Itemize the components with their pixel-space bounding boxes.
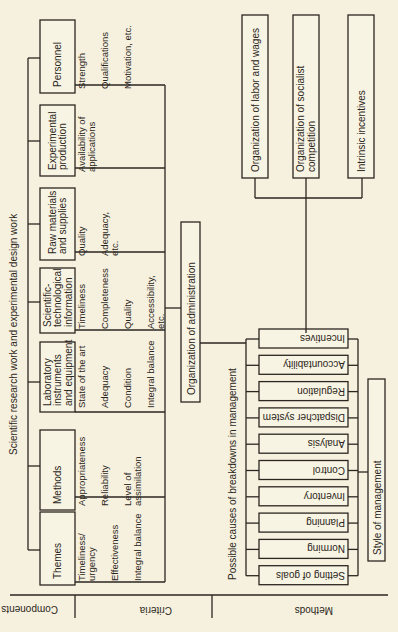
component-box: Scientific-technologicalinformation	[40, 268, 75, 333]
component-label: Laboratory	[42, 358, 53, 406]
criterion-text: Completeness	[99, 268, 110, 329]
criterion-text: Effectiveness	[109, 524, 120, 581]
incentive-type-box: Intrinsic incentives	[348, 15, 374, 178]
management-function-box: Analysis	[246, 434, 358, 453]
management-function-box: Control	[246, 461, 358, 480]
criterion-text: Quality	[122, 299, 133, 329]
axis-label-methods: Methods	[295, 605, 333, 616]
component-box: Methods	[40, 430, 75, 510]
criterion-text: Qualifications	[99, 32, 110, 89]
criterion-text: Quality	[76, 226, 87, 256]
criterion-text: Reliability	[99, 465, 110, 506]
incentive-type-box: Organization of socialistcompetition	[293, 15, 319, 178]
component-label: Themes	[52, 543, 63, 579]
incentive-type-label: Organization of labor and wages	[250, 28, 261, 172]
svg-text:Style of management: Style of management	[372, 460, 383, 555]
management-function-label: Dispatcher system	[263, 412, 345, 423]
component-label: Personnel	[52, 42, 63, 87]
breakdowns-caption: Possible causes of breakdowns in managem…	[227, 368, 238, 580]
axis-bar: Components Criteria Methods	[1, 595, 388, 618]
component-label: and equipment	[63, 340, 74, 406]
component-label: instruments	[52, 354, 63, 406]
component-box: Themes	[40, 512, 75, 585]
component-box: Laboratoryinstrumentsand equipment	[40, 340, 75, 412]
diagram-title: Scientific research work and experimenta…	[8, 213, 19, 455]
style-of-management-box: Style of management	[358, 379, 385, 561]
axis-label-components: Components	[1, 604, 58, 615]
component-box: Personnel	[40, 20, 75, 93]
component-box: Raw materialsand supplies	[40, 188, 75, 260]
management-function-box: Accountability	[246, 355, 358, 374]
component-label: and supplies	[57, 198, 68, 254]
management-function-box: Inventory	[246, 487, 358, 506]
management-function-box: Planning	[246, 513, 358, 532]
incentive-type-label: Intrinsic incentives	[356, 90, 367, 172]
incentive-type-label: Organization of socialist	[295, 66, 306, 172]
management-function-label: Incentives	[300, 333, 345, 344]
incentive-type-label: competition	[306, 121, 317, 172]
management-function-label: Setting of goals	[276, 570, 345, 581]
criterion-text: Integral balance	[145, 340, 156, 408]
component-label: Scientific-	[42, 284, 53, 327]
components-spine	[28, 58, 40, 550]
management-breakdown-diagram: Scientific research work and experimenta…	[0, 0, 398, 632]
criterion-text: applications	[86, 122, 97, 172]
management-function-label: Control	[313, 465, 345, 476]
management-function-label: Regulation	[297, 386, 345, 397]
criterion-text: Timeliness	[76, 284, 87, 329]
incentives-subtree	[255, 178, 362, 333]
management-function-label: Analysis	[308, 438, 345, 449]
management-function-box: Norming	[246, 539, 358, 558]
management-function-box: Setting of goals	[246, 566, 358, 585]
component-label: Raw materials	[47, 191, 58, 254]
management-function-label: Inventory	[304, 491, 345, 502]
criterion-text: etc.	[155, 314, 166, 329]
svg-text:Organization of administration: Organization of administration	[186, 262, 197, 395]
criterion-text: urgency	[86, 547, 97, 581]
management-function-label: Accountability	[283, 359, 345, 370]
component-box: Experimentalproduction	[40, 105, 75, 176]
criterion-text: assimilation	[132, 456, 143, 506]
criterion-text: Appropriateness	[76, 437, 87, 506]
criterion-text: Integral balance	[132, 513, 143, 581]
criterion-text: Condition	[122, 368, 133, 408]
component-label: Methods	[52, 466, 63, 504]
component-label: Experimental	[47, 112, 58, 170]
criterion-text: Adequacy	[99, 365, 110, 408]
management-function-box: Regulation	[246, 382, 358, 401]
component-label: production	[57, 123, 68, 170]
component-label: technological	[52, 269, 63, 327]
criterion-text: Strength	[76, 53, 87, 89]
management-function-box: Incentives	[246, 329, 358, 348]
management-function-label: Planning	[306, 517, 345, 528]
component-label: information	[63, 278, 74, 327]
management-function-label: Norming	[307, 543, 345, 554]
criterion-text: State of the art	[76, 345, 87, 408]
criterion-text: Motivation, etc.	[122, 25, 133, 89]
management-function-box: Dispatcher system	[246, 408, 358, 427]
criterion-text: etc.	[109, 241, 120, 256]
incentive-type-box: Organization of labor and wages	[242, 15, 268, 178]
axis-label-criteria: Criteria	[139, 605, 172, 616]
